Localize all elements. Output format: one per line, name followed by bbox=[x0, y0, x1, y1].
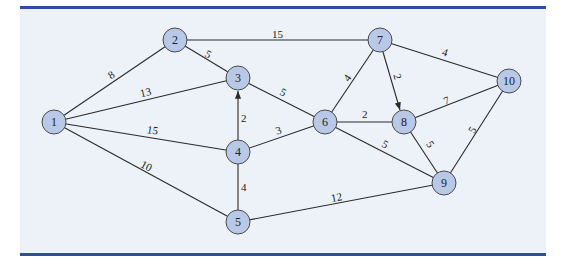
weight-1-2: 8 bbox=[105, 68, 117, 81]
svg-text:2: 2 bbox=[172, 33, 178, 47]
weight-5-9: 12 bbox=[330, 190, 343, 204]
svg-text:3: 3 bbox=[235, 71, 241, 85]
svg-text:4: 4 bbox=[235, 145, 241, 159]
weight-8-9: 5 bbox=[424, 139, 437, 151]
svg-text:9: 9 bbox=[441, 176, 447, 190]
edge-5-9 bbox=[238, 183, 444, 222]
node-8: 8 bbox=[392, 110, 416, 134]
edge-3-6 bbox=[238, 78, 325, 122]
weight-2-3: 5 bbox=[203, 47, 214, 60]
weight-8-10: 7 bbox=[442, 93, 452, 106]
weight-1-5: 10 bbox=[139, 158, 155, 174]
edge-1-3 bbox=[54, 78, 238, 122]
weight-1-3: 13 bbox=[139, 85, 153, 99]
svg-text:10: 10 bbox=[503, 74, 515, 88]
edge-6-9 bbox=[325, 122, 444, 183]
node-10: 10 bbox=[497, 69, 521, 93]
network-graph: 8 13 15 10 5 15 5 2 3 4 12 4 2 5 2 4 7 5… bbox=[0, 0, 564, 268]
weight-4-6: 3 bbox=[274, 123, 283, 136]
svg-text:8: 8 bbox=[401, 115, 407, 129]
weight-4-3: 2 bbox=[241, 112, 247, 124]
weight-7-10: 4 bbox=[441, 45, 450, 58]
edge-7-8-directed bbox=[383, 52, 400, 110]
weight-7-8: 2 bbox=[391, 72, 404, 81]
svg-text:5: 5 bbox=[235, 215, 241, 229]
weight-2-7: 15 bbox=[272, 28, 284, 40]
weight-6-8: 2 bbox=[362, 108, 368, 120]
weight-1-4: 15 bbox=[146, 123, 159, 137]
svg-text:6: 6 bbox=[322, 115, 328, 129]
svg-text:1: 1 bbox=[51, 115, 57, 129]
node-6: 6 bbox=[313, 110, 337, 134]
node-5: 5 bbox=[226, 210, 250, 234]
node-9: 9 bbox=[432, 171, 456, 195]
edge-1-2 bbox=[54, 40, 175, 122]
weight-4-5: 4 bbox=[241, 181, 247, 193]
node-7: 7 bbox=[368, 28, 392, 52]
node-3: 3 bbox=[226, 66, 250, 90]
node-4: 4 bbox=[226, 140, 250, 164]
node-1: 1 bbox=[42, 110, 66, 134]
edge-8-10 bbox=[404, 81, 509, 122]
svg-text:7: 7 bbox=[377, 33, 383, 47]
weight-3-6: 5 bbox=[278, 85, 289, 98]
edge-4-6 bbox=[238, 122, 325, 152]
weight-6-9: 5 bbox=[380, 137, 391, 150]
edge-6-7 bbox=[325, 40, 380, 122]
node-2: 2 bbox=[163, 28, 187, 52]
edge-weights: 8 13 15 10 5 15 5 2 3 4 12 4 2 5 2 4 7 5… bbox=[105, 28, 479, 204]
weight-9-10: 5 bbox=[465, 124, 478, 135]
